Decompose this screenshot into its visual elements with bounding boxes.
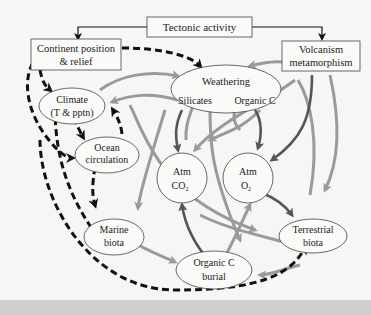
node-atm-co2: Atm CO2: [157, 153, 207, 203]
svg-text:(T & pptn): (T & pptn): [50, 107, 93, 119]
svg-text:Volcanism: Volcanism: [299, 44, 343, 55]
svg-text:biota: biota: [303, 237, 324, 248]
svg-text:Continent position: Continent position: [37, 43, 116, 54]
diagram-svg: Tectonic activity Continent position & r…: [0, 0, 371, 300]
svg-text:biota: biota: [104, 237, 125, 248]
svg-text:metamorphism: metamorphism: [290, 57, 353, 68]
node-tectonic-activity: Tectonic activity: [147, 17, 252, 37]
svg-text:Ocean: Ocean: [94, 142, 120, 153]
svg-text:Climate: Climate: [56, 94, 88, 105]
svg-text:Silicates: Silicates: [178, 95, 212, 106]
node-organic-c-burial: Organic C burial: [176, 251, 252, 289]
svg-text:Organic C: Organic C: [193, 257, 235, 268]
node-atm-o2: Atm O2: [223, 153, 273, 203]
svg-text:burial: burial: [202, 271, 226, 282]
node-climate: Climate (T & pptn): [39, 88, 105, 124]
node-volcanism: Volcanism metamorphism: [282, 41, 360, 71]
node-terrestrial-biota: Terrestrial biota: [279, 219, 347, 253]
svg-text:Organic C: Organic C: [234, 95, 276, 106]
svg-text:Marine: Marine: [100, 224, 129, 235]
node-weathering: Weathering Silicates Organic C: [171, 65, 281, 113]
svg-text:circulation: circulation: [86, 154, 129, 165]
node-continent-position: Continent position & relief: [31, 39, 121, 70]
svg-text:& relief: & relief: [60, 56, 93, 67]
svg-text:Atm: Atm: [173, 166, 191, 177]
svg-text:Atm: Atm: [239, 166, 257, 177]
node-marine-biota: Marine biota: [84, 219, 144, 255]
svg-text:Terrestrial: Terrestrial: [293, 224, 334, 235]
diagram-canvas: Tectonic activity Continent position & r…: [0, 0, 371, 315]
node-ocean-circulation: Ocean circulation: [75, 137, 139, 173]
svg-text:Tectonic activity: Tectonic activity: [163, 21, 237, 33]
svg-text:Weathering: Weathering: [202, 76, 251, 87]
bottom-bar: [0, 300, 371, 315]
